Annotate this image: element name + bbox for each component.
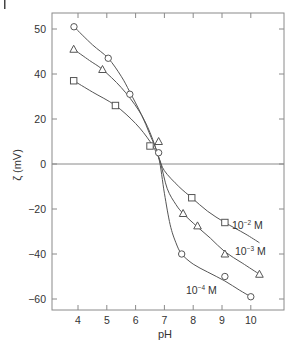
triangle-marker	[194, 222, 202, 229]
triangle-marker	[70, 45, 78, 52]
zeta-potential-chart: 456789105040200−20−40−60 pH ζ (mV) 10−2 …	[0, 0, 297, 356]
y-tick-label: −40	[28, 248, 46, 260]
square-marker	[222, 219, 228, 225]
curve-triangle	[74, 49, 260, 274]
square-marker	[147, 143, 153, 149]
circle-marker	[155, 150, 161, 156]
triangle-marker	[155, 138, 163, 145]
y-tick-label: 0	[40, 158, 46, 170]
square-marker	[70, 78, 76, 84]
series-label-10-3M: 10−3 M	[235, 245, 266, 257]
triangle-marker	[99, 66, 107, 73]
y-tick-label: 40	[34, 68, 46, 80]
circle-marker	[105, 55, 111, 61]
circle-marker	[248, 294, 254, 300]
x-tick-label: 5	[104, 314, 110, 326]
triangle-marker	[256, 270, 264, 277]
square-marker	[189, 195, 195, 201]
x-tick-label: 9	[219, 314, 225, 326]
circle-marker	[71, 24, 77, 30]
x-tick-label: 4	[75, 314, 81, 326]
circle-marker	[178, 251, 184, 257]
page-marker	[4, 0, 6, 9]
axis-ticks	[52, 13, 284, 310]
y-tick-label: −60	[28, 293, 46, 305]
plot-frame	[52, 13, 284, 310]
x-axis-title: pH	[158, 328, 172, 340]
series-label-10-4M: 10−4 M	[186, 284, 217, 296]
y-tick-label: 20	[34, 113, 46, 125]
circle-marker	[127, 91, 133, 97]
y-tick-label: −20	[28, 203, 46, 215]
square-marker	[112, 102, 118, 108]
axis-tick-labels: 456789105040200−20−40−60	[28, 23, 257, 326]
x-tick-label: 7	[161, 314, 167, 326]
x-tick-label: 6	[133, 314, 139, 326]
y-tick-label: 50	[34, 23, 46, 35]
series-label-10-2M: 10−2 M	[232, 219, 263, 231]
x-tick-label: 10	[245, 314, 257, 326]
x-tick-label: 8	[190, 314, 196, 326]
y-axis-title: ζ (mV)	[11, 149, 23, 181]
circle-marker	[222, 273, 228, 279]
